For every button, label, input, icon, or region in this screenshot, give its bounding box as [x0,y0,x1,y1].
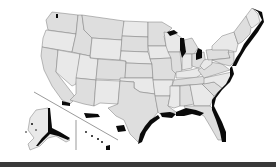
state-michigan[interactable] [184,38,198,54]
hawaii-island [97,138,99,140]
alaska-island [31,123,33,125]
coast-texas-west [116,125,126,132]
coast-puget [56,14,58,18]
state-new-mexico[interactable] [94,80,120,106]
hawaii-island [101,141,103,143]
state-south-dakota[interactable] [121,36,148,52]
alaska-inset [25,108,70,150]
state-mississippi[interactable] [168,86,180,108]
alaska-island [25,131,27,133]
coast-arizona [84,113,100,118]
state-kansas[interactable] [125,63,153,78]
hawaii-big-island [106,145,110,150]
bottom-bar [0,162,276,167]
hawaii-island [85,131,87,133]
us-map [0,0,276,162]
hawaii-island [91,135,93,137]
state-north-dakota[interactable] [122,21,148,37]
hawaii-inset [85,131,110,150]
state-colorado[interactable] [96,59,126,80]
state-new-york[interactable] [212,32,238,52]
state-indiana[interactable] [182,54,192,70]
alaska-island [35,129,37,131]
coast-louisiana [160,112,176,118]
state-wyoming[interactable] [90,38,122,60]
